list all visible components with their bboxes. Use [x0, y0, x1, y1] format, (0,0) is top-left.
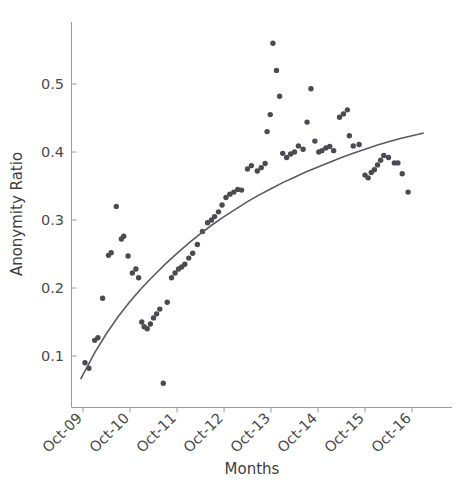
data-point: [375, 162, 380, 167]
y-tick-label: 0.4: [41, 144, 64, 160]
data-point: [130, 270, 135, 275]
data-point: [292, 149, 297, 154]
y-tick-label: 0.2: [41, 280, 64, 296]
data-point: [195, 242, 200, 247]
data-point: [308, 86, 313, 91]
data-point: [239, 187, 244, 192]
data-point: [331, 148, 336, 153]
data-point: [300, 147, 305, 152]
data-point: [395, 160, 400, 165]
data-point: [327, 144, 332, 149]
data-point: [400, 171, 405, 176]
data-point: [268, 112, 273, 117]
data-point: [139, 319, 144, 324]
data-point: [341, 111, 346, 116]
data-point: [351, 143, 356, 148]
data-point: [386, 155, 391, 160]
x-axis-title: Months: [225, 460, 280, 478]
data-point: [219, 202, 224, 207]
data-point: [345, 107, 350, 112]
data-point: [133, 266, 138, 271]
data-point: [125, 253, 130, 258]
data-point: [114, 204, 119, 209]
data-point: [312, 138, 317, 143]
y-tick-label: 0.5: [41, 76, 64, 92]
y-axis: 0.10.20.30.40.5: [41, 22, 77, 407]
data-point: [216, 209, 221, 214]
data-point: [148, 321, 153, 326]
data-point: [95, 335, 100, 340]
data-point: [280, 151, 285, 156]
data-point: [157, 306, 162, 311]
data-point: [274, 68, 279, 73]
data-point: [145, 326, 150, 331]
data-point: [172, 270, 177, 275]
data-point: [378, 157, 383, 162]
data-point: [277, 94, 282, 99]
data-point: [100, 296, 105, 301]
y-tick-label: 0.1: [41, 348, 64, 364]
data-point: [347, 133, 352, 138]
data-point: [264, 129, 269, 134]
data-point: [121, 234, 126, 239]
data-point: [249, 163, 254, 168]
data-point: [259, 165, 264, 170]
data-point: [405, 189, 410, 194]
data-point: [154, 311, 159, 316]
data-point: [381, 153, 386, 158]
data-point: [109, 250, 114, 255]
y-axis-title: Anonymity Ratio: [8, 152, 26, 276]
y-tick-label: 0.3: [41, 212, 64, 228]
data-point: [262, 161, 267, 166]
data-point: [270, 41, 275, 46]
data-point: [161, 381, 166, 386]
scatter-chart-figure: 0.10.20.30.40.5 Oct-09Oct-10Oct-11Oct-12…: [0, 0, 466, 489]
data-point: [169, 275, 174, 280]
data-point: [356, 142, 361, 147]
data-point: [212, 214, 217, 219]
data-point: [190, 251, 195, 256]
data-point: [304, 119, 309, 124]
chart-canvas: 0.10.20.30.40.5 Oct-09Oct-10Oct-11Oct-12…: [0, 0, 466, 489]
data-point: [165, 300, 170, 305]
data-point: [296, 143, 301, 148]
data-point: [365, 175, 370, 180]
data-point: [82, 360, 87, 365]
data-point: [182, 262, 187, 267]
data-point: [136, 275, 141, 280]
data-point: [186, 255, 191, 260]
data-point: [372, 167, 377, 172]
